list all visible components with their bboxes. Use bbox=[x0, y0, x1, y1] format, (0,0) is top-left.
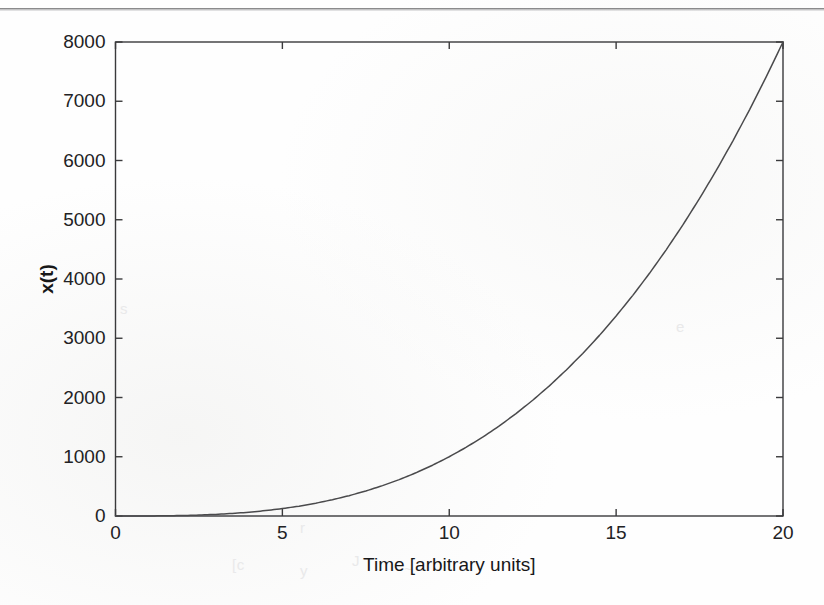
y-tick-label: 1000 bbox=[63, 446, 105, 468]
y-tick-label: 6000 bbox=[63, 150, 105, 172]
x-tick-label: 5 bbox=[277, 522, 288, 544]
x-tick-label: 0 bbox=[110, 522, 121, 544]
scanned-figure-page: [cyJ~rse 0100020003000400050006000700080… bbox=[0, 0, 824, 605]
axes-frame bbox=[116, 42, 784, 516]
y-tick-label: 0 bbox=[95, 505, 106, 527]
y-tick-label: 7000 bbox=[63, 90, 105, 112]
y-tick-label: 2000 bbox=[63, 387, 105, 409]
x-axis-title: Time [arbitrary units] bbox=[363, 554, 535, 576]
x-tick-label: 15 bbox=[606, 522, 627, 544]
x-tick-label: 20 bbox=[772, 522, 793, 544]
chart-figure: 010002000300040005000600070008000 051015… bbox=[0, 0, 824, 605]
y-tick-label: 8000 bbox=[63, 31, 105, 53]
data-curve-0 bbox=[116, 42, 784, 516]
y-tick-label: 3000 bbox=[63, 327, 105, 349]
x-tick-label: 10 bbox=[439, 522, 460, 544]
axes-box bbox=[116, 42, 784, 516]
y-axis-title: x(t) bbox=[36, 264, 58, 294]
data-curve-group bbox=[116, 42, 784, 516]
y-tick-label: 4000 bbox=[63, 268, 105, 290]
tick-marks-group bbox=[116, 42, 784, 516]
y-tick-label: 5000 bbox=[63, 209, 105, 231]
plot-canvas bbox=[0, 0, 824, 605]
